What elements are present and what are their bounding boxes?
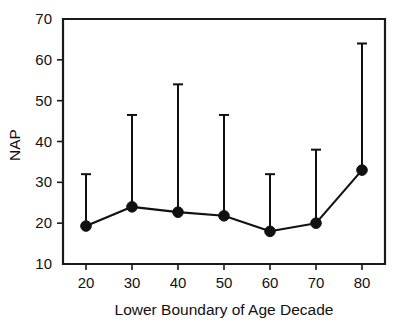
y-tick-label: 10 — [35, 255, 52, 272]
data-point-marker — [127, 202, 138, 213]
chart-figure: 10203040506070 20304050607080 NAP Lower … — [0, 0, 408, 324]
data-point-marker — [357, 165, 368, 176]
error-bars — [81, 44, 367, 232]
y-axis-tick-labels: 10203040506070 — [35, 10, 52, 272]
x-axis-tick-labels: 20304050607080 — [78, 274, 371, 291]
y-tick-label: 20 — [35, 214, 52, 231]
nap-vs-age-line-chart: 10203040506070 20304050607080 NAP Lower … — [0, 0, 408, 324]
y-tick-label: 40 — [35, 133, 52, 150]
data-point-marker — [265, 226, 276, 237]
data-point-marker — [311, 218, 322, 229]
x-tick-label: 70 — [308, 274, 325, 291]
x-tick-label: 50 — [216, 274, 233, 291]
y-tick-label: 70 — [35, 10, 52, 27]
y-axis-title: NAP — [6, 129, 23, 161]
data-point-marker — [219, 211, 230, 222]
x-axis-title: Lower Boundary of Age Decade — [115, 301, 334, 318]
x-tick-label: 40 — [170, 274, 187, 291]
y-tick-label: 60 — [35, 51, 52, 68]
x-tick-label: 80 — [354, 274, 371, 291]
data-point-marker — [81, 221, 92, 232]
y-tick-label: 30 — [35, 173, 52, 190]
x-tick-label: 20 — [78, 274, 95, 291]
x-tick-label: 60 — [262, 274, 279, 291]
y-tick-label: 50 — [35, 92, 52, 109]
data-point-marker — [173, 207, 184, 218]
x-tick-label: 30 — [124, 274, 141, 291]
